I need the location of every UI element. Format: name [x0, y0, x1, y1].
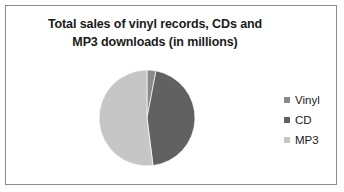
chart-title-line-2: MP3 downloads (in millions) — [20, 33, 290, 51]
legend-swatch-vinyl — [284, 97, 290, 103]
legend-swatch-mp3 — [284, 137, 290, 143]
chart-frame: Total sales of vinyl records, CDs and MP… — [5, 5, 337, 185]
legend-item-cd[interactable]: CD — [284, 110, 340, 130]
pie-chart-svg — [94, 65, 200, 171]
legend-item-mp3[interactable]: MP3 — [284, 130, 340, 150]
legend-label-mp3: MP3 — [295, 134, 319, 146]
chart-title-line-1: Total sales of vinyl records, CDs and — [20, 15, 290, 33]
chart-legend: Vinyl CD MP3 — [284, 90, 340, 150]
pie-slice-cd[interactable] — [147, 71, 195, 166]
legend-item-vinyl[interactable]: Vinyl — [284, 90, 340, 110]
pie-slice-group — [99, 70, 195, 166]
legend-label-cd: CD — [295, 114, 312, 126]
chart-title: Total sales of vinyl records, CDs and MP… — [20, 15, 290, 51]
legend-label-vinyl: Vinyl — [295, 94, 320, 106]
pie-slice-mp3[interactable] — [99, 70, 153, 166]
legend-swatch-cd — [284, 117, 290, 123]
pie-chart-plot-area — [94, 65, 200, 171]
